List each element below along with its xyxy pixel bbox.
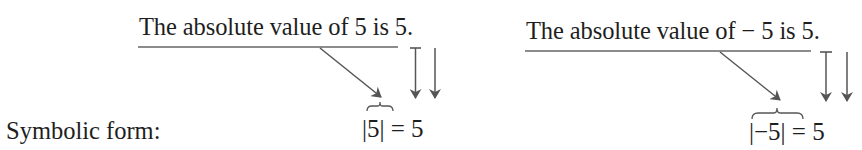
arrow-absolute-value-2 [720,52,780,100]
sentence-1: The absolute value of 5 is 5. [139,13,413,41]
brace-1 [367,102,393,111]
symbolic-form-label: Symbolic form: [6,117,160,145]
arrow-absolute-value-1 [320,48,381,97]
expression-2: |−5| = 5 [749,118,825,146]
sentence-2: The absolute value of − 5 is 5. [526,17,820,45]
expression-1: |5| = 5 [362,115,424,143]
